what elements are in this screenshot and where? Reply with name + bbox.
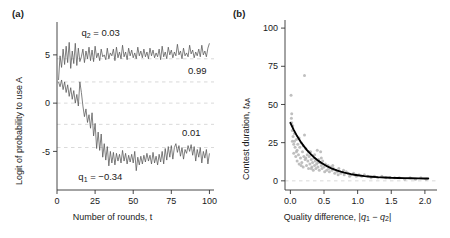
panel-a-x-tick-label: 75 <box>166 196 176 206</box>
scatter-points-group <box>290 74 428 181</box>
scatter-point <box>304 156 307 159</box>
panel-b-y-tick-label: 75 <box>268 61 278 71</box>
panel-b-x-axis-title: Quality difference, |q1 − q2| <box>225 212 450 222</box>
scatter-point <box>303 134 306 137</box>
scatter-point <box>328 170 331 173</box>
panel-a-x-axis-title: Number of rounds, t <box>0 212 225 222</box>
panel-a-y-tick-label: 0 <box>45 98 50 108</box>
panel-b-x-tick-label: 2.0 <box>419 196 432 206</box>
panel-b-plot: 0.00.51.01.52.00255075100 <box>225 0 450 238</box>
q1-annotation: q1 = −0.34 <box>78 171 122 183</box>
scatter-point <box>303 74 306 77</box>
scatter-point <box>292 143 295 146</box>
scatter-point <box>337 173 340 176</box>
scatter-point <box>316 166 319 169</box>
scatter-point <box>316 149 319 152</box>
panel-a-x-tick-label: 50 <box>128 196 138 206</box>
scatter-point <box>311 161 314 164</box>
scatter-point <box>320 156 323 159</box>
upper-trace-line <box>59 42 210 80</box>
scatter-point <box>300 164 303 167</box>
panel-b-y-tick-label: 25 <box>268 138 278 148</box>
panel-b-y-tick-label: 100 <box>263 23 278 33</box>
panel-a-x-tick-label: 100 <box>202 196 217 206</box>
panel-a: (a) 0255075100-505q2 = 0.030.990.01q1 = … <box>0 0 225 238</box>
scatter-point <box>297 153 300 156</box>
scatter-point <box>323 170 326 173</box>
scatter-point <box>308 163 311 166</box>
scatter-point <box>310 158 313 161</box>
lower-trace-line <box>59 80 210 171</box>
scatter-point <box>292 152 295 155</box>
scatter-point <box>290 117 293 120</box>
scatter-point <box>292 135 295 138</box>
panel-b-y-axis-title: Contest duration, tAA <box>241 98 251 180</box>
figure-container: (a) 0255075100-505q2 = 0.030.990.01q1 = … <box>0 0 450 238</box>
panel-b-y-tick-label: 0 <box>273 176 278 186</box>
scatter-point <box>293 140 296 143</box>
scatter-point <box>337 167 340 170</box>
scatter-point <box>307 167 310 170</box>
scatter-point <box>310 167 313 170</box>
scatter-point <box>301 150 304 153</box>
scatter-point <box>296 159 299 162</box>
panel-a-plot: 0255075100-505q2 = 0.030.990.01q1 = −0.3… <box>0 0 225 238</box>
panel-b: (b) 0.00.51.01.52.00255075100 Quality di… <box>225 0 450 238</box>
upper-prob-annotation: 0.99 <box>188 65 207 76</box>
scatter-point <box>294 146 297 149</box>
scatter-point <box>299 156 302 159</box>
scatter-point <box>298 146 301 149</box>
panel-a-y-axis-title: Logit of probability to use A <box>14 77 24 185</box>
scatter-point <box>290 94 293 97</box>
scatter-point <box>331 164 334 167</box>
scatter-point <box>308 155 311 158</box>
scatter-point <box>319 150 322 153</box>
scatter-point <box>348 175 351 178</box>
lower-prob-annotation: 0.01 <box>182 127 201 138</box>
panel-a-x-tick-label: 25 <box>90 196 100 206</box>
scatter-point <box>318 169 321 172</box>
scatter-point <box>306 159 309 162</box>
scatter-point <box>296 143 299 146</box>
scatter-point <box>305 164 308 167</box>
panel-a-y-tick-label: -5 <box>42 147 50 157</box>
panel-b-x-tick-label: 0.5 <box>318 196 331 206</box>
scatter-point <box>294 155 297 158</box>
q2-annotation: q2 = 0.03 <box>81 27 120 39</box>
panel-b-x-tick-label: 1.0 <box>351 196 364 206</box>
panel-b-y-tick-label: 50 <box>268 100 278 110</box>
panel-b-x-tick-label: 0.0 <box>284 196 297 206</box>
scatter-point <box>333 172 336 175</box>
scatter-point <box>295 150 298 153</box>
scatter-point <box>290 112 293 115</box>
panel-a-y-tick-label: 5 <box>45 50 50 60</box>
panel-a-x-tick-label: 0 <box>54 196 59 206</box>
panel-b-x-tick-label: 1.5 <box>385 196 398 206</box>
scatter-point <box>300 161 303 164</box>
